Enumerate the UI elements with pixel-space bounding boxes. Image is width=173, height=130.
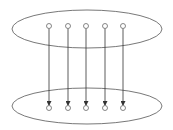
mapping-diagram: [0, 0, 173, 130]
domain-node: [66, 24, 71, 29]
domain-node: [121, 24, 126, 29]
codomain-node: [84, 106, 89, 111]
domain-node: [103, 24, 108, 29]
codomain-node: [103, 106, 108, 111]
codomain-node: [47, 106, 52, 111]
domain-node: [84, 24, 89, 29]
set-ellipse-top: [12, 10, 162, 48]
codomain-node: [121, 106, 126, 111]
domain-node: [47, 24, 52, 29]
codomain-node: [66, 106, 71, 111]
